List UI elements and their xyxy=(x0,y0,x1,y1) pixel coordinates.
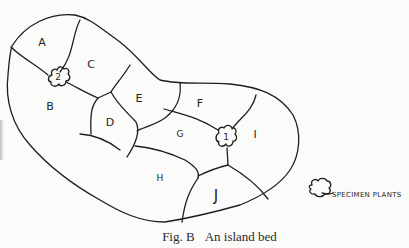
region-label-f: F xyxy=(197,98,203,109)
boundary-f-i xyxy=(232,95,256,129)
region-label-c: C xyxy=(87,59,95,70)
boundary-g-j xyxy=(198,165,228,176)
island-bed-figure: A B C D E F G H I J 2 1 SPECIMEN PLANTS … xyxy=(0,0,409,248)
region-label-b: B xyxy=(46,101,54,112)
bed-outline xyxy=(7,15,298,222)
boundary-d-b-lower xyxy=(80,134,120,150)
boundary-c-e xyxy=(98,65,130,98)
boundary-d-e xyxy=(111,92,138,157)
boundary-a-c xyxy=(60,20,80,72)
specimen-plant-label-1: 1 xyxy=(223,133,229,142)
region-label-d: D xyxy=(106,117,114,128)
region-label-i: I xyxy=(253,129,256,140)
boundary-b-c xyxy=(66,82,98,98)
specimen-plant-label-2: 2 xyxy=(55,73,61,82)
boundary-a-b xyxy=(11,47,48,75)
boundary-b-d xyxy=(91,98,98,134)
region-label-g: G xyxy=(177,130,184,139)
boundary-i-j xyxy=(227,148,268,199)
boundary-g-h xyxy=(135,146,198,178)
region-label-j: J xyxy=(214,189,218,204)
figure-caption: Fig. BAn island bed xyxy=(0,229,409,245)
island-bed-diagram xyxy=(0,0,409,248)
legend-label: SPECIMEN PLANTS xyxy=(332,191,402,199)
boundary-h-j xyxy=(182,178,198,222)
region-label-e: E xyxy=(136,93,143,104)
caption-number: Fig. B xyxy=(162,229,195,244)
region-label-a: A xyxy=(38,37,46,48)
caption-text: An island bed xyxy=(205,229,277,244)
boundary-e-f xyxy=(137,83,180,131)
boundary-f-g xyxy=(164,109,218,130)
region-label-h: H xyxy=(157,174,164,183)
